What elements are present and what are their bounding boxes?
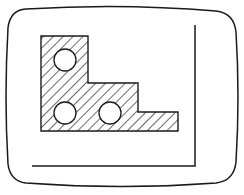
hole-top-left [54,49,76,71]
diagram-svg [0,0,244,195]
hole-bottom-left [54,102,76,124]
diagram-canvas: Monitor screen outline containing a hatc… [0,0,244,195]
hole-bottom-middle [99,102,121,124]
